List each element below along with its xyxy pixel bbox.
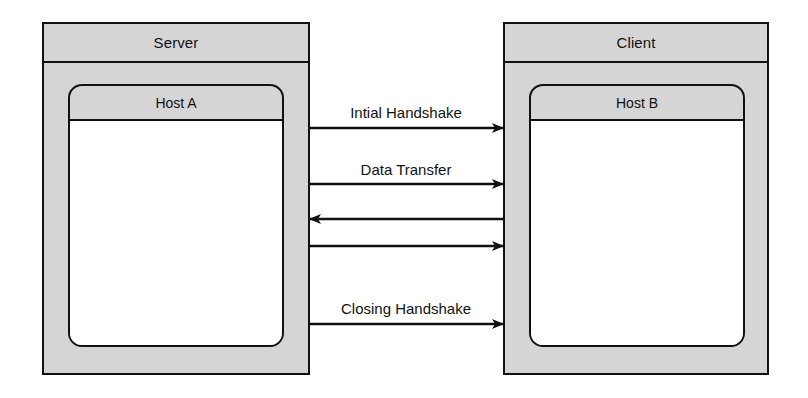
node-client[interactable]: Client Host B bbox=[503, 22, 769, 375]
node-client-label: Client bbox=[617, 34, 656, 51]
node-server[interactable]: Server Host A bbox=[42, 22, 310, 375]
host-a-header: Host A bbox=[70, 86, 282, 121]
host-a-box[interactable]: Host A bbox=[68, 84, 284, 347]
host-a-label: Host A bbox=[155, 95, 196, 111]
message-label-initial-handshake: Intial Handshake bbox=[350, 104, 462, 121]
host-b-label: Host B bbox=[616, 95, 658, 111]
host-a-body bbox=[70, 121, 282, 345]
message-label-closing-handshake: Closing Handshake bbox=[341, 300, 471, 317]
host-b-box[interactable]: Host B bbox=[529, 84, 745, 347]
host-b-body bbox=[531, 121, 743, 345]
host-b-header: Host B bbox=[531, 86, 743, 121]
message-label-data-transfer: Data Transfer bbox=[361, 161, 452, 178]
websocket-handshake-diagram: Server Host A Client Host B bbox=[0, 0, 808, 398]
node-server-header: Server bbox=[44, 24, 308, 63]
node-server-label: Server bbox=[154, 34, 199, 51]
arrow-group bbox=[310, 128, 503, 324]
node-client-header: Client bbox=[505, 24, 767, 63]
